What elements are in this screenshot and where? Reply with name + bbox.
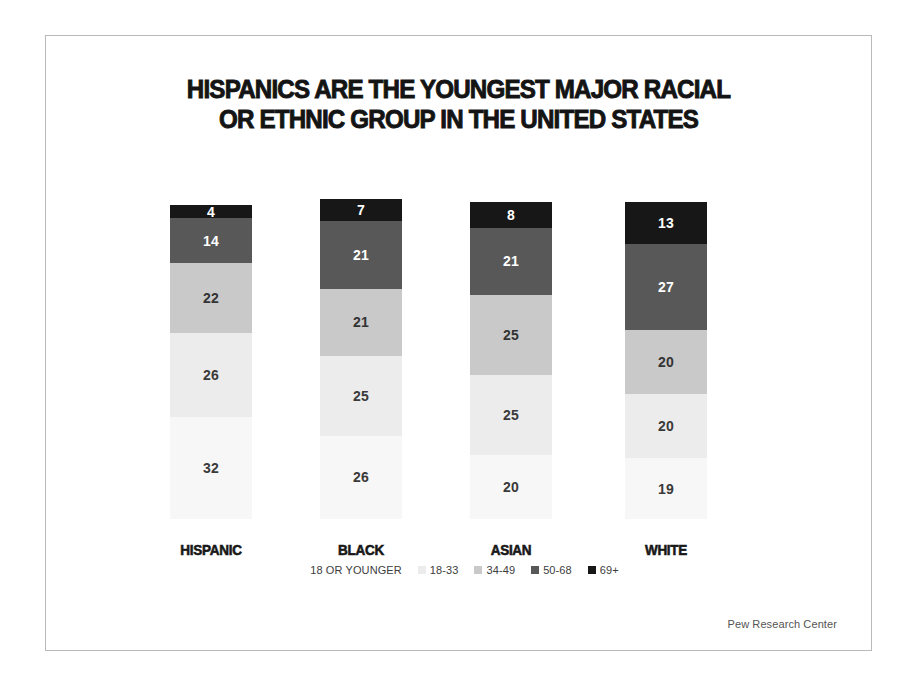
bar-segment-value: 25 — [470, 407, 552, 423]
bar-segment[interactable]: 20 — [625, 394, 707, 458]
bar-segment-value: 19 — [625, 481, 707, 497]
bar-segment[interactable]: 21 — [320, 289, 402, 356]
chart-poster: HISPANICS ARE THE YOUNGEST MAJOR RACIAL … — [45, 35, 872, 651]
bar-group-asian: 821252520ASIAN — [461, 36, 561, 650]
legend-item[interactable]: 18-33 — [418, 564, 459, 576]
bar-segment-value: 7 — [320, 202, 402, 218]
stacked-bar[interactable]: 721212526 — [320, 199, 402, 519]
bar-segment-value: 22 — [170, 290, 252, 306]
legend-item[interactable]: 50-68 — [531, 564, 572, 576]
bar-segment[interactable]: 19 — [625, 458, 707, 519]
bar-segment-value: 21 — [320, 247, 402, 263]
stacked-bar-plot: 414222632HISPANIC721212526BLACK821252520… — [46, 36, 871, 650]
bar-segment-value: 25 — [320, 388, 402, 404]
legend-item[interactable]: 18 OR YOUNGER — [298, 564, 402, 576]
legend-swatch-icon — [588, 566, 596, 574]
bar-segment[interactable]: 4 — [170, 205, 252, 218]
bar-segment-value: 8 — [470, 207, 552, 223]
legend-label: 18 OR YOUNGER — [310, 564, 402, 576]
bar-segment[interactable]: 25 — [320, 356, 402, 436]
bar-segment[interactable]: 26 — [170, 333, 252, 416]
legend-swatch-icon — [531, 566, 539, 574]
bar-segment-value: 21 — [320, 314, 402, 330]
bar-segment-value: 26 — [170, 367, 252, 383]
bar-segment[interactable]: 13 — [625, 202, 707, 244]
bar-segment[interactable]: 7 — [320, 199, 402, 221]
category-label-asian: ASIAN — [466, 541, 556, 558]
bar-segment[interactable]: 25 — [470, 375, 552, 455]
bar-segment-value: 32 — [170, 460, 252, 476]
bar-segment[interactable]: 21 — [470, 228, 552, 295]
legend-label: 69+ — [600, 564, 619, 576]
bar-group-black: 721212526BLACK — [311, 36, 411, 650]
legend-label: 50-68 — [543, 564, 572, 576]
category-label-white: WHITE — [621, 541, 711, 558]
bar-segment-value: 25 — [470, 327, 552, 343]
bar-segment[interactable]: 27 — [625, 244, 707, 330]
legend-label: 18-33 — [430, 564, 459, 576]
bar-segment[interactable]: 14 — [170, 218, 252, 263]
bar-segment-value: 14 — [170, 233, 252, 249]
bar-group-white: 1327202019WHITE — [616, 36, 716, 650]
bar-segment-value: 20 — [625, 418, 707, 434]
bar-segment[interactable]: 20 — [470, 455, 552, 519]
bar-segment[interactable]: 8 — [470, 202, 552, 228]
bar-segment-value: 21 — [470, 253, 552, 269]
bar-segment-value: 20 — [625, 354, 707, 370]
bar-segment-value: 27 — [625, 279, 707, 295]
chart-legend: 18 OR YOUNGER18-3334-4950-6869+ — [46, 564, 871, 576]
bar-segment[interactable]: 21 — [320, 221, 402, 288]
bar-segment[interactable]: 22 — [170, 263, 252, 333]
legend-label: 34-49 — [486, 564, 515, 576]
bar-segment[interactable]: 32 — [170, 417, 252, 519]
bar-segment-value: 26 — [320, 469, 402, 485]
legend-item[interactable]: 69+ — [588, 564, 619, 576]
legend-item[interactable]: 34-49 — [474, 564, 515, 576]
bar-segment[interactable]: 26 — [320, 436, 402, 519]
source-attribution: Pew Research Center — [727, 618, 837, 630]
bar-segment-value: 20 — [470, 479, 552, 495]
category-label-black: BLACK — [316, 541, 406, 558]
bar-segment-value: 13 — [625, 215, 707, 231]
bar-segment[interactable]: 20 — [625, 330, 707, 394]
category-label-hispanic: HISPANIC — [166, 541, 256, 558]
bar-segment[interactable]: 25 — [470, 295, 552, 375]
stacked-bar[interactable]: 414222632 — [170, 205, 252, 519]
legend-swatch-icon — [418, 566, 426, 574]
stacked-bar[interactable]: 1327202019 — [625, 202, 707, 519]
bar-group-hispanic: 414222632HISPANIC — [161, 36, 261, 650]
stacked-bar[interactable]: 821252520 — [470, 202, 552, 519]
legend-swatch-icon — [474, 566, 482, 574]
